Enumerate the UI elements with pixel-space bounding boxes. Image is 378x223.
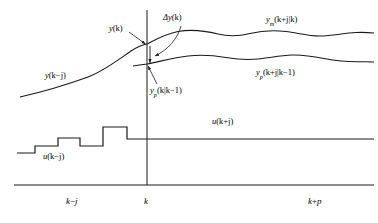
past-input-staircase [17, 127, 147, 153]
label-current-output: y(k) [109, 24, 123, 33]
label-process-at-k: yp(k|k−1) [150, 86, 182, 97]
label-future-input: u(k+j) [212, 117, 233, 126]
past-output-curve [20, 44, 147, 97]
process-prediction-curve [133, 55, 374, 66]
y-k-leader [129, 32, 146, 44]
diagram-canvas [0, 0, 378, 223]
label-past-output: y(k−j) [45, 71, 66, 80]
tick-label-past: k−j [66, 197, 78, 206]
tick-label-future: k+p [308, 197, 322, 206]
label-past-input: u(k−j) [43, 152, 64, 161]
process-at-k-leader [148, 66, 157, 84]
tick-label-present: k [144, 197, 148, 206]
mpc-prediction-diagram: y(k−j) y(k) Δy(k) ym(k+j|k) yp(k+j|k−1) … [0, 0, 378, 223]
delta-y-leader [155, 26, 181, 56]
model-prediction-curve [147, 30, 374, 44]
label-process-prediction: yp(k+j|k−1) [256, 68, 295, 79]
label-model-prediction: ym(k+j|k) [266, 15, 297, 26]
label-delta-output: Δy(k) [163, 13, 182, 22]
